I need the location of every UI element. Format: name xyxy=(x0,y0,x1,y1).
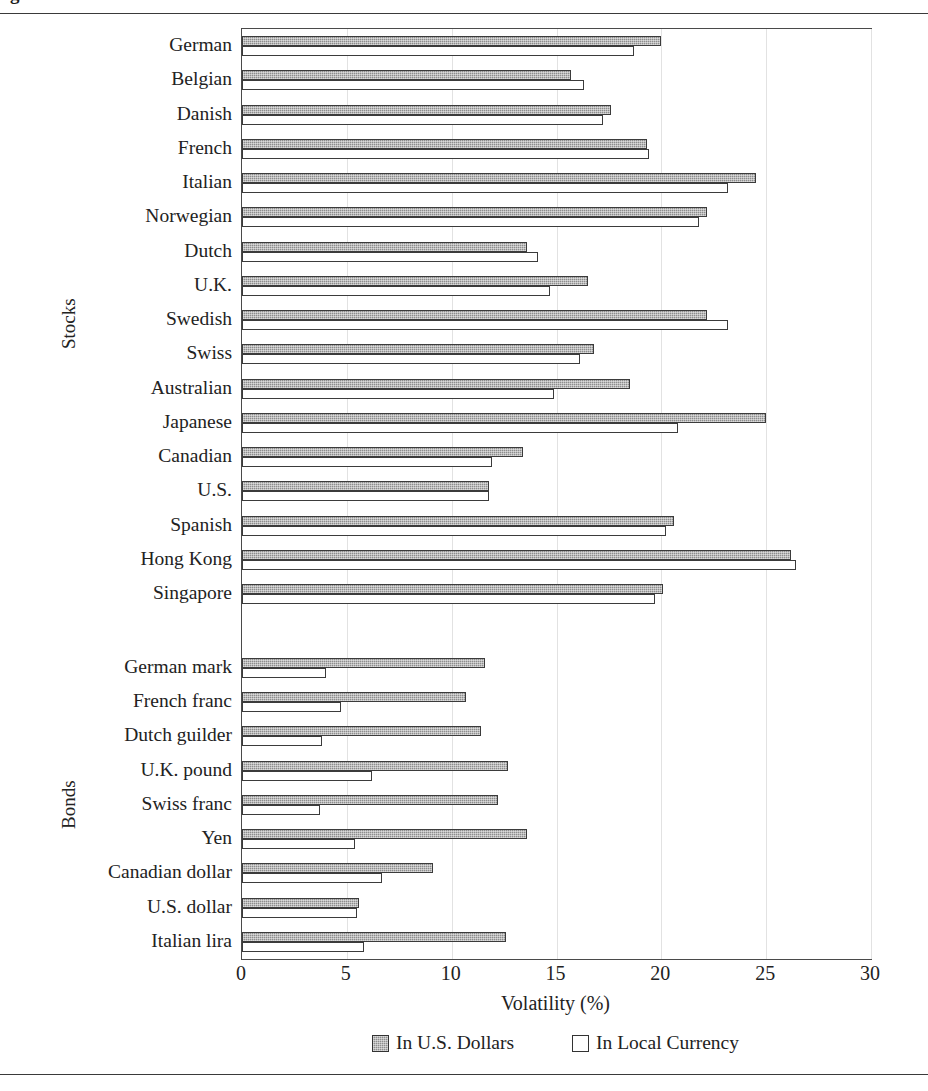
category-label: Singapore xyxy=(0,583,232,603)
bar-local xyxy=(242,908,357,918)
bar-local xyxy=(242,668,326,678)
bar-local xyxy=(242,80,584,90)
category-label: Dutch guilder xyxy=(0,725,232,745)
bar-local xyxy=(242,560,796,570)
bar-usd xyxy=(242,516,674,526)
bar-local xyxy=(242,389,554,399)
bar-usd xyxy=(242,726,481,736)
bar-local xyxy=(242,491,489,501)
bar-usd xyxy=(242,70,571,80)
legend-label: In U.S. Dollars xyxy=(396,1032,514,1054)
category-label: French franc xyxy=(0,691,232,711)
category-label: Swiss xyxy=(0,343,232,363)
category-label: Swedish xyxy=(0,309,232,329)
category-label: Spanish xyxy=(0,515,232,535)
bar-usd xyxy=(242,139,647,149)
bar-local xyxy=(242,942,364,952)
category-label: Australian xyxy=(0,378,232,398)
x-tick-label: 5 xyxy=(341,962,351,985)
x-tick-label: 0 xyxy=(236,962,246,985)
bar-local xyxy=(242,771,372,781)
bar-usd xyxy=(242,584,663,594)
category-label: German xyxy=(0,35,232,55)
bar-local xyxy=(242,217,699,227)
category-label: German mark xyxy=(0,657,232,677)
gridline xyxy=(871,29,872,959)
bar-usd xyxy=(242,932,506,942)
category-label: Danish xyxy=(0,104,232,124)
bar-usd xyxy=(242,692,466,702)
legend-swatch-local-icon xyxy=(572,1035,589,1052)
bar-local xyxy=(242,702,341,712)
legend-label: In Local Currency xyxy=(596,1032,739,1054)
category-label: U.K. xyxy=(0,275,232,295)
chart-plot-area xyxy=(241,28,872,960)
bars-layer xyxy=(242,29,871,959)
legend-item: In U.S. Dollars xyxy=(372,1032,514,1054)
figure-title-partial: g xyxy=(10,0,20,5)
bar-local xyxy=(242,354,580,364)
bar-usd xyxy=(242,379,630,389)
figure-header: g xyxy=(0,0,928,22)
bar-usd xyxy=(242,829,527,839)
bar-local xyxy=(242,149,649,159)
category-label: Swiss franc xyxy=(0,794,232,814)
bar-local xyxy=(242,457,492,467)
header-divider xyxy=(0,13,928,14)
bar-usd xyxy=(242,658,485,668)
bar-local xyxy=(242,423,678,433)
legend-item: In Local Currency xyxy=(572,1032,739,1054)
x-tick-label: 15 xyxy=(546,962,566,985)
x-tick-label: 10 xyxy=(441,962,461,985)
bar-local xyxy=(242,873,382,883)
bar-usd xyxy=(242,550,791,560)
group-label-stocks: Stocks xyxy=(58,298,80,349)
x-tick-label: 25 xyxy=(755,962,775,985)
footer-divider xyxy=(0,1074,928,1075)
category-label: Japanese xyxy=(0,412,232,432)
bar-local xyxy=(242,594,655,604)
bar-local xyxy=(242,286,550,296)
bar-local xyxy=(242,115,603,125)
category-label: Italian xyxy=(0,172,232,192)
category-label: U.K. pound xyxy=(0,760,232,780)
category-label: Canadian dollar xyxy=(0,862,232,882)
x-tick-label: 30 xyxy=(860,962,880,985)
bar-usd xyxy=(242,173,756,183)
bar-usd xyxy=(242,276,588,286)
bar-local xyxy=(242,183,728,193)
bar-local xyxy=(242,252,538,262)
category-label: Canadian xyxy=(0,446,232,466)
bar-local xyxy=(242,839,355,849)
category-label: French xyxy=(0,138,232,158)
category-label: U.S. xyxy=(0,480,232,500)
category-label: Belgian xyxy=(0,69,232,89)
category-label: Yen xyxy=(0,828,232,848)
bar-usd xyxy=(242,242,527,252)
category-label: Dutch xyxy=(0,241,232,261)
group-label-bonds: Bonds xyxy=(58,780,80,829)
bar-local xyxy=(242,736,322,746)
bar-usd xyxy=(242,898,359,908)
chart-legend: In U.S. DollarsIn Local Currency xyxy=(241,1032,870,1054)
category-label: U.S. dollar xyxy=(0,897,232,917)
category-label: Hong Kong xyxy=(0,549,232,569)
bar-usd xyxy=(242,36,661,46)
bar-usd xyxy=(242,413,766,423)
bar-usd xyxy=(242,310,707,320)
bar-usd xyxy=(242,447,523,457)
bar-usd xyxy=(242,795,498,805)
bar-usd xyxy=(242,863,433,873)
x-axis-title: Volatility (%) xyxy=(241,992,870,1015)
bar-local xyxy=(242,46,634,56)
bar-usd xyxy=(242,761,508,771)
bar-local xyxy=(242,320,728,330)
bar-usd xyxy=(242,207,707,217)
category-label: Italian lira xyxy=(0,931,232,951)
category-label: Norwegian xyxy=(0,206,232,226)
bar-usd xyxy=(242,105,611,115)
legend-swatch-usd-icon xyxy=(372,1035,389,1052)
x-tick-label: 20 xyxy=(650,962,670,985)
x-axis-tick-labels: 051015202530 xyxy=(241,962,870,988)
bar-usd xyxy=(242,344,594,354)
